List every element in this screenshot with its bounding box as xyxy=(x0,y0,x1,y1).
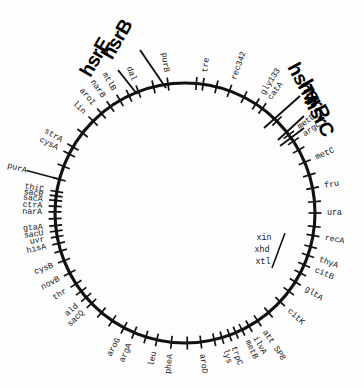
gene-tick-pheA xyxy=(171,336,172,349)
genetic-map-canvas: purAcysAstrAlinaroInarBmtlBdalpurBtrerec… xyxy=(0,0,364,388)
inner-gene-label-xin: xin xyxy=(257,233,272,243)
gene-tick-ctrA xyxy=(49,206,62,207)
gene-label-recA: recA xyxy=(324,233,346,246)
tick-marks-group xyxy=(49,77,322,349)
gene-label-fru: fru xyxy=(323,178,339,191)
map-tick-0 xyxy=(196,77,197,90)
gene-label-cysB: cysB xyxy=(33,261,55,278)
gene-tick-tre xyxy=(202,78,204,91)
leader-line-purA xyxy=(27,171,58,179)
map-tick-20 xyxy=(49,218,62,219)
gene-tick-purB xyxy=(167,78,169,91)
gene-tick-recA xyxy=(307,234,320,236)
gene-label-tre: tre xyxy=(200,57,212,73)
gene-label-metC: metC xyxy=(314,145,336,162)
map-tick-7 xyxy=(308,226,321,227)
gene-label-purB: purB xyxy=(159,52,171,73)
map-tick-6 xyxy=(308,201,321,202)
inner-labels-group: xinxhdxtl xyxy=(255,233,285,268)
inner-gene-label-xhd: xhd xyxy=(255,245,270,255)
gene-tick-thiC xyxy=(50,190,63,192)
gene-label-citK: citK xyxy=(285,306,307,327)
gene-tick-sacA xyxy=(49,200,62,201)
gene-label-gltA: gltA xyxy=(303,284,326,303)
gene-label-thr: thr xyxy=(51,286,69,302)
circular-genetic-map-figure: purAcysAstrAlinaroInarBmtlBdalpurBtrerec… xyxy=(0,0,364,388)
gene-tick-gtaA xyxy=(49,225,62,226)
gene-label-rec342: rec342 xyxy=(229,50,249,81)
gene-tick-sacR xyxy=(50,195,63,197)
gene-label-ura: ura xyxy=(327,208,342,218)
gene-label-leu: leu xyxy=(146,351,159,368)
gene-label-gtaA: gtaA xyxy=(23,222,45,234)
gene-tick-sacU xyxy=(50,230,63,232)
gene-tick-aroD xyxy=(200,336,202,349)
hsr-leader-hsrC xyxy=(280,128,304,146)
gene-label-pheA: pheA xyxy=(163,353,175,375)
gene-label-purA: purA xyxy=(6,161,29,176)
gene-label-aroD: aroD xyxy=(197,353,209,374)
gene-tick-uvr xyxy=(51,236,64,238)
leader-lines-group xyxy=(27,171,58,179)
xin-xhd-xtl-bracket xyxy=(272,233,285,268)
inner-gene-label-xtl: xtl xyxy=(256,257,271,267)
